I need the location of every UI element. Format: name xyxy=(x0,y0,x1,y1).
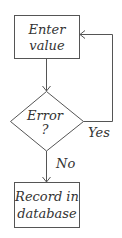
node-error-line1: Error xyxy=(26,108,64,123)
node-record-line2: database xyxy=(17,206,77,221)
node-error-line2: ? xyxy=(42,122,50,137)
edge-yes-label: Yes xyxy=(88,125,110,140)
node-enter-line2: value xyxy=(29,38,65,53)
edge-error-no: No xyxy=(43,151,76,182)
node-enter-value: Enter value xyxy=(15,16,80,59)
flowchart: Enter value Error ? Yes No Record in dat… xyxy=(0,0,122,238)
edge-no-label: No xyxy=(55,156,75,171)
node-record-line1: Record in xyxy=(14,189,79,204)
node-error-decision: Error ? xyxy=(11,92,84,152)
edge-error-yes-loop: Yes xyxy=(80,31,113,141)
node-record-database: Record in database xyxy=(14,183,79,228)
node-enter-line1: Enter xyxy=(28,22,67,37)
edge-enter-to-error xyxy=(43,59,51,92)
